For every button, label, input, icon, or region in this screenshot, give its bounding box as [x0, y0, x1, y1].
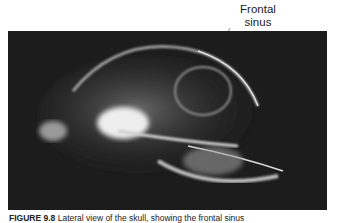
caption-label: FIGURE 9.8: [9, 213, 55, 223]
skull-radiograph: [8, 31, 327, 210]
caption-text: Lateral view of the skull, showing the f…: [58, 213, 245, 223]
figure-caption: FIGURE 9.8 Lateral view of the skull, sh…: [9, 213, 339, 223]
